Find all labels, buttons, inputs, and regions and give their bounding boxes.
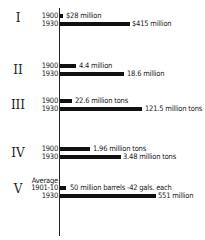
- group-roman-numeral: II: [8, 63, 28, 77]
- value-label-1930: 18.6 million: [127, 70, 164, 78]
- bar-1900: [60, 64, 76, 68]
- value-label-1930: $415 million: [132, 20, 171, 28]
- value-label-1900: 4.4 million: [79, 62, 112, 70]
- group-roman-numeral: III: [8, 98, 28, 112]
- bar-1900: [60, 147, 90, 151]
- bar-1900: [60, 14, 63, 18]
- value-label-1901-10: 50 million barrels -42 gals. each: [70, 184, 172, 192]
- bar-1930: [60, 22, 130, 26]
- group-roman-numeral: IV: [8, 146, 28, 160]
- year-label-1930: 1930: [42, 192, 58, 200]
- year-label-1930: 1930: [42, 153, 58, 161]
- bar-1930: [60, 155, 121, 159]
- group-roman-numeral: I: [8, 11, 28, 25]
- value-label-1930: 3.48 million tons: [123, 153, 176, 161]
- bar-1930: [60, 194, 156, 198]
- value-label-1930: 121.5 million tons: [145, 105, 202, 113]
- value-label-1900: $28 million: [66, 12, 101, 20]
- vertical-axis-line: [59, 8, 60, 236]
- year-label-1930: 1930: [42, 20, 58, 28]
- group-roman-numeral: V: [8, 182, 28, 196]
- bar-1900: [60, 99, 72, 103]
- year-label-1930: 1930: [42, 70, 58, 78]
- bar-1930: [60, 72, 124, 76]
- bar-1901-10: [60, 186, 66, 190]
- bar-1930: [60, 107, 142, 111]
- year-label-1930: 1930: [42, 105, 58, 113]
- value-label-1900: 22.6 million tons: [75, 97, 128, 105]
- value-label-1930: 551 million: [158, 192, 193, 200]
